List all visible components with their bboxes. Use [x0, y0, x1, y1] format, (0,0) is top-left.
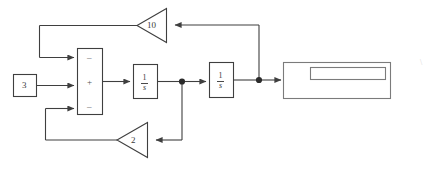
summing-sign-minus-top: – — [87, 53, 92, 62]
stray-pen-mark: \ — [420, 58, 422, 67]
junction-node-a — [179, 78, 185, 84]
gain-10-label: 10 — [147, 20, 156, 30]
integrator1-transfer-function: 1 s — [141, 74, 148, 93]
integrator2-numerator: 1 — [219, 72, 223, 80]
gain-2-label: 2 — [131, 135, 136, 145]
summing-sign-minus-bottom: – — [87, 102, 92, 111]
integrator1-numerator: 1 — [143, 74, 147, 82]
output-block-inner-outline — [311, 68, 386, 80]
integrator2-denominator: s — [219, 82, 222, 90]
junction-node-b — [256, 77, 262, 83]
summing-sign-plus-middle: + — [87, 78, 92, 87]
integrator2-transfer-function: 1 s — [217, 72, 224, 91]
source-block-label: 3 — [22, 80, 27, 90]
block-diagram-canvas: 3 – + – 1 s 1 s 10 2 \ — [0, 0, 433, 169]
integrator1-denominator: s — [143, 84, 146, 92]
